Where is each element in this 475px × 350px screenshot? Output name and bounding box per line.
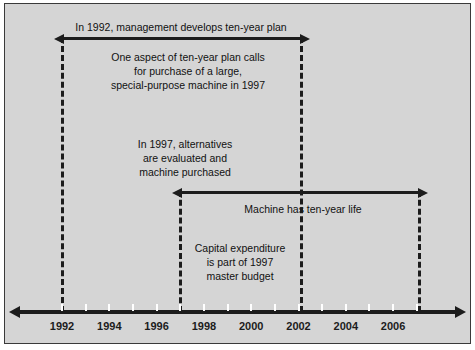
timeline-tick-1993 (85, 304, 87, 311)
note-plan-detail-line-3: special-purpose machine in 1997 (111, 78, 265, 92)
year-label-2002: 2002 (286, 320, 310, 332)
timeline-tick-2003 (321, 304, 323, 311)
note-alternatives-line-3: machine purchased (138, 165, 233, 179)
note-plan-detail: One aspect of ten-year plan calls for pu… (111, 50, 265, 92)
note-alternatives: In 1997, alternatives are evaluated and … (138, 137, 233, 179)
timeline-figure: In 1992, management develops ten-year pl… (0, 0, 475, 350)
note-capital-expenditure-line-3: master budget (195, 269, 285, 283)
year-label-1998: 1998 (192, 320, 216, 332)
span-caption-machine-life: Machine has ten-year life (244, 202, 361, 216)
marker-line-2002 (300, 37, 303, 312)
timeline-tick-1996 (156, 304, 158, 311)
span-caption-ten-year-plan: In 1992, management develops ten-year pl… (75, 20, 286, 34)
marker-line-1997 (179, 191, 182, 312)
year-label-2004: 2004 (334, 320, 358, 332)
note-capital-expenditure: Capital expenditure is part of 1997 mast… (195, 241, 285, 283)
timeline-tick-1998 (203, 304, 205, 311)
timeline-tick-2004 (345, 304, 347, 311)
note-plan-detail-line-2: for purchase of a large, (111, 64, 265, 78)
year-label-1992: 1992 (50, 320, 74, 332)
year-label-1996: 1996 (144, 320, 168, 332)
note-alternatives-line-1: In 1997, alternatives (138, 137, 233, 151)
timeline-tick-1997 (179, 304, 181, 311)
span-arrow-ten-year-plan (63, 37, 301, 40)
timeline-tick-2001 (274, 304, 276, 311)
note-alternatives-line-2: are evaluated and (138, 151, 233, 165)
marker-line-2007 (418, 191, 421, 312)
year-label-1994: 1994 (97, 320, 121, 332)
note-plan-detail-line-1: One aspect of ten-year plan calls (111, 50, 265, 64)
note-capital-expenditure-line-2: is part of 1997 (195, 255, 285, 269)
timeline-tick-1992 (61, 304, 63, 311)
year-label-2006: 2006 (381, 320, 405, 332)
timeline-tick-2006 (392, 304, 394, 311)
note-capital-expenditure-line-1: Capital expenditure (195, 241, 285, 255)
year-label-2000: 2000 (239, 320, 263, 332)
timeline-tick-1995 (132, 304, 134, 311)
marker-line-1992 (61, 37, 64, 312)
timeline-tick-1999 (227, 304, 229, 311)
timeline-tick-2005 (368, 304, 370, 311)
timeline-tick-2000 (250, 304, 252, 311)
figure-plate: In 1992, management develops ten-year pl… (4, 3, 471, 344)
timeline-tick-2002 (298, 304, 300, 311)
timeline-tick-2007 (416, 304, 418, 311)
timeline-tick-1994 (108, 304, 110, 311)
